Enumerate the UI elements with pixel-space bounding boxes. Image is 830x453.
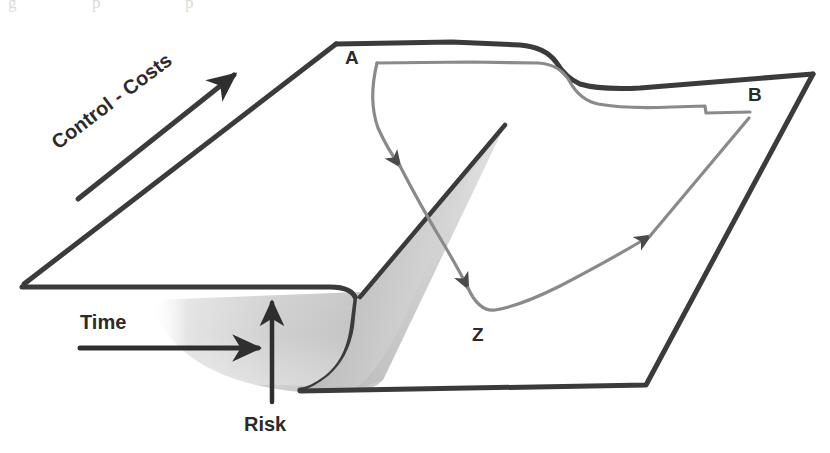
ghost-text-fragment: p [185, 0, 194, 12]
axis-label-risk: Risk [244, 413, 287, 435]
ghost-text-fragment: g [8, 0, 17, 12]
label-corner-a: A [345, 47, 359, 68]
axis-control-costs: Control - Costs [47, 49, 234, 199]
upper-sheet [22, 42, 813, 390]
upper-sheet-back-edge [336, 42, 813, 89]
trajectory-ascent-b [468, 236, 650, 310]
label-point-z: Z [472, 324, 484, 345]
cusp-catastrophe-figure: g p p [0, 0, 830, 453]
diagram-canvas: g p p [0, 0, 830, 453]
ghost-text-line: g p p [8, 0, 194, 12]
axis-label-time: Time [80, 311, 126, 333]
label-corner-b: B [748, 84, 762, 105]
trajectory-descent-a [373, 63, 400, 166]
upper-sheet-left-edge [24, 44, 336, 284]
ghost-text-fragment: p [92, 0, 101, 12]
